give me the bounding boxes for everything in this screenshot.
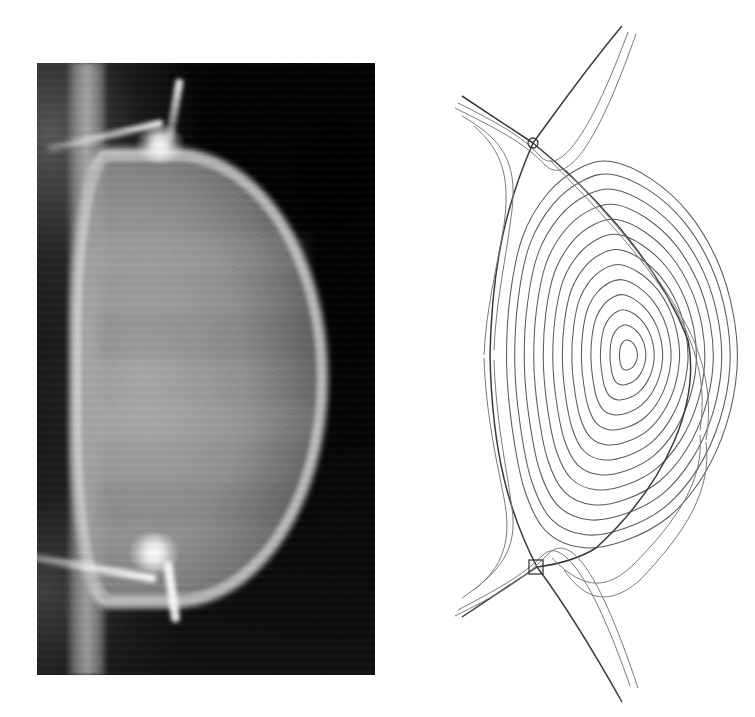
plasma-photograph [37, 63, 375, 675]
separatrix-leg-upper-inboard [462, 96, 533, 143]
flux-surface-plot [400, 10, 745, 710]
separatrix-leg-upper-outboard [533, 26, 622, 143]
sol-surface-lower-2 [455, 548, 638, 688]
closed-flux-surface-01 [620, 340, 638, 370]
sol-surface-lower-5 [552, 435, 700, 583]
sol-surface-upper-2 [455, 34, 636, 170]
sol-surface-upper-1 [458, 32, 628, 161]
photo-noise-grain [37, 63, 375, 675]
closed-flux-surface-02 [610, 325, 646, 385]
closed-flux-surface-12 [515, 174, 730, 535]
sol-surface-lower-4 [474, 358, 507, 590]
closed-flux-surface-05 [581, 280, 671, 430]
sol-surface-lower-1 [458, 551, 630, 686]
closed-flux-surface-13 [507, 161, 738, 548]
closed-flux-surfaces [507, 161, 738, 548]
figure-root [0, 0, 755, 717]
sol-surface-lower-3 [462, 360, 513, 598]
closed-flux-surface-10 [534, 204, 714, 505]
flux-contour-svg [400, 10, 745, 710]
sol-surface-upper-4 [474, 126, 506, 355]
closed-flux-surface-04 [591, 295, 663, 415]
